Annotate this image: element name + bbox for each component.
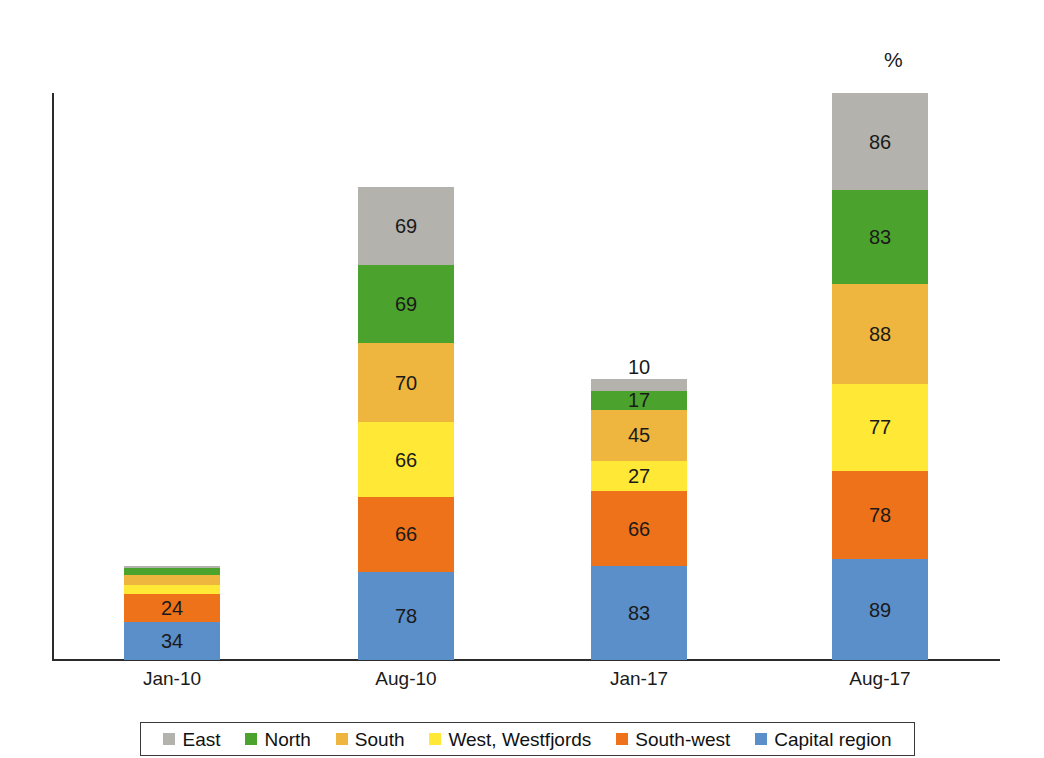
legend-item[interactable]: South <box>336 730 405 749</box>
legend-label: East <box>182 730 220 749</box>
legend-swatch-icon <box>163 733 175 745</box>
bar-segment-value: 66 <box>395 524 417 544</box>
legend-item[interactable]: West, Westfjords <box>429 730 591 749</box>
bar-segment[interactable]: 66 <box>358 422 454 497</box>
bar-segment-value: 69 <box>395 216 417 236</box>
bar-segment-value: 78 <box>395 606 417 626</box>
legend-swatch-icon <box>616 733 628 745</box>
bar-segment-value: 86 <box>869 132 891 152</box>
bar-segment[interactable]: 86 <box>832 93 928 190</box>
bar-segment-value: 24 <box>161 598 183 618</box>
bar-segment[interactable]: 45 <box>591 410 687 461</box>
bar-segment[interactable]: 24 <box>124 594 220 621</box>
bar-segment[interactable]: 89 <box>832 559 928 660</box>
x-axis-tick-label: Jan-10 <box>102 668 242 690</box>
bar-stack[interactable]: 3424 <box>124 566 220 660</box>
bar-segment[interactable]: 66 <box>358 497 454 572</box>
bar-segment-value: 45 <box>628 425 650 445</box>
legend-label: Capital region <box>774 730 891 749</box>
legend-item[interactable]: South-west <box>616 730 730 749</box>
legend-swatch-icon <box>755 733 767 745</box>
bar-segment[interactable]: 69 <box>358 265 454 343</box>
chart-legend: EastNorthSouthWest, WestfjordsSouth-west… <box>140 722 915 756</box>
bar-segment-value: 17 <box>628 390 650 410</box>
bar-segment-value: 89 <box>869 600 891 620</box>
bar-segment-value: 88 <box>869 324 891 344</box>
bar-segment-value: 66 <box>395 450 417 470</box>
bar-segment-value: 10 <box>628 357 650 377</box>
bar-segment[interactable]: 77 <box>832 384 928 471</box>
bar-segment[interactable]: 10 <box>591 379 687 390</box>
bar-segment[interactable]: 34 <box>124 622 220 660</box>
legend-swatch-icon <box>336 733 348 745</box>
bar-segment-value: 66 <box>628 519 650 539</box>
x-axis-tick-label: Aug-17 <box>810 668 950 690</box>
bar-segment[interactable]: 78 <box>358 572 454 660</box>
bar-segment[interactable]: 88 <box>832 284 928 384</box>
x-axis-tick-label: Aug-10 <box>336 668 476 690</box>
bar-segment-value: 27 <box>628 466 650 486</box>
legend-item[interactable]: Capital region <box>755 730 891 749</box>
bar-segment-value: 34 <box>161 631 183 651</box>
legend-item[interactable]: East <box>163 730 220 749</box>
legend-swatch-icon <box>245 733 257 745</box>
bar-segment[interactable] <box>124 575 220 585</box>
legend-label: South-west <box>635 730 730 749</box>
legend-label: West, Westfjords <box>448 730 591 749</box>
legend-swatch-icon <box>429 733 441 745</box>
bar-segment-value: 83 <box>869 227 891 247</box>
legend-item[interactable]: North <box>245 730 310 749</box>
chart-canvas: % 3424Jan-10786666706969Aug-108366274517… <box>0 0 1044 758</box>
bar-stack[interactable]: 897877888386 <box>832 93 928 660</box>
bar-segment[interactable]: 70 <box>358 343 454 422</box>
legend-label: South <box>355 730 405 749</box>
bar-segment[interactable]: 83 <box>832 190 928 284</box>
bar-segment-value: 83 <box>628 603 650 623</box>
bar-segment[interactable]: 66 <box>591 491 687 566</box>
bar-segment[interactable]: 17 <box>591 391 687 410</box>
bar-segment-value: 69 <box>395 294 417 314</box>
plot-area: 3424Jan-10786666706969Aug-10836627451710… <box>0 0 1044 758</box>
bar-segment[interactable] <box>124 566 220 568</box>
bar-segment[interactable] <box>124 585 220 594</box>
bar-stack[interactable]: 836627451710 <box>591 379 687 660</box>
bar-segment[interactable]: 27 <box>591 461 687 492</box>
bar-segment-value: 70 <box>395 373 417 393</box>
bar-segment-value: 78 <box>869 505 891 525</box>
bar-segment[interactable]: 78 <box>832 471 928 559</box>
bar-segment[interactable]: 69 <box>358 187 454 265</box>
bar-segment[interactable]: 83 <box>591 566 687 660</box>
bar-segment-value: 77 <box>869 417 891 437</box>
bar-segment[interactable] <box>124 568 220 575</box>
legend-label: North <box>264 730 310 749</box>
x-axis-tick-label: Jan-17 <box>569 668 709 690</box>
bar-stack[interactable]: 786666706969 <box>358 187 454 660</box>
